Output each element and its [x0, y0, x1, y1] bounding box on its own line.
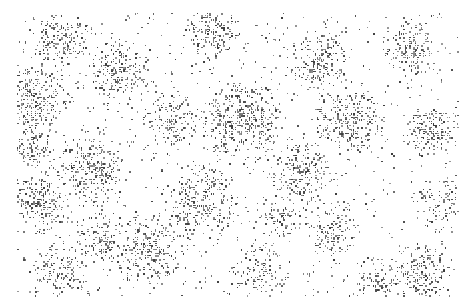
- speckle-texture-image: [0, 0, 474, 307]
